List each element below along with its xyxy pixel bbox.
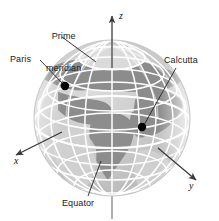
prime-meridian-label: Prime meridian bbox=[46, 10, 81, 94]
prime-meridian-label-line1: Prime bbox=[46, 31, 81, 42]
globe-figure: Prime meridian Paris Calcutta Equator z … bbox=[0, 0, 219, 221]
x-axis-label: x bbox=[14, 155, 18, 166]
equator-label: Equator bbox=[62, 198, 94, 209]
globe-diagram bbox=[0, 0, 219, 221]
calcutta-label: Calcutta bbox=[164, 55, 198, 66]
y-axis-label: y bbox=[189, 180, 193, 191]
paris-label: Paris bbox=[10, 54, 31, 65]
prime-meridian-label-line2: meridian bbox=[46, 63, 81, 74]
calcutta-marker[interactable] bbox=[138, 123, 146, 131]
z-axis-label: z bbox=[119, 10, 123, 21]
